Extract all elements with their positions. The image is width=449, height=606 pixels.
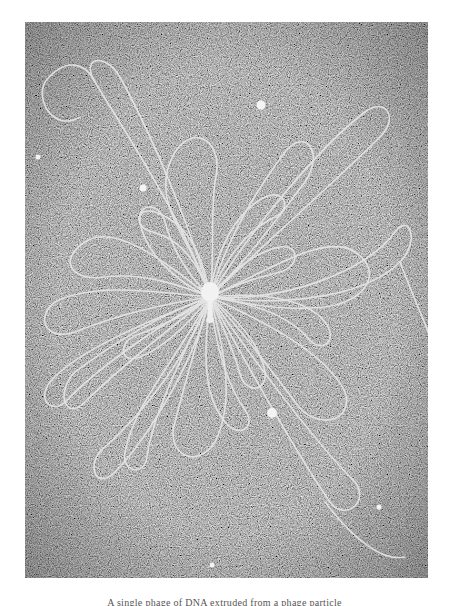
phage-head xyxy=(201,282,219,302)
micrograph-photo xyxy=(25,22,428,578)
figure-caption: A single phage of DNA extruded from a ph… xyxy=(0,597,449,606)
phage-tail xyxy=(208,300,213,318)
micrograph-svg xyxy=(25,22,428,578)
